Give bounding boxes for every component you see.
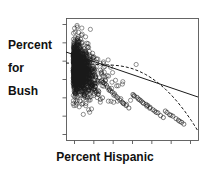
scatter-points (71, 23, 186, 126)
scatterplot-figure: Percent for Bush Percent Hispanic (0, 0, 210, 172)
plot-canvas (0, 0, 210, 172)
